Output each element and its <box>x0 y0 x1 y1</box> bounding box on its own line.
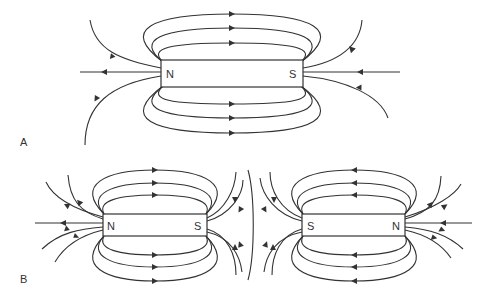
panel-b-right: S N <box>248 167 472 284</box>
field-line <box>303 76 388 118</box>
field-line <box>302 195 407 214</box>
field-line <box>143 14 320 62</box>
south-pole-label: S <box>289 68 296 80</box>
north-pole-label: N <box>107 220 115 232</box>
bar-magnet <box>302 214 405 236</box>
field-line <box>93 236 218 281</box>
field-line <box>90 20 161 68</box>
field-line <box>292 236 417 281</box>
bar-magnet <box>103 214 207 236</box>
field-line <box>42 227 103 249</box>
field-line <box>207 232 242 272</box>
field-line <box>158 86 305 104</box>
field-line <box>103 236 208 255</box>
field-line <box>143 86 320 133</box>
field-line <box>405 184 461 217</box>
north-pole-label: N <box>166 68 174 80</box>
panel-label-b: B <box>20 273 27 285</box>
panel-a: N S A <box>20 11 400 148</box>
field-line <box>302 236 407 255</box>
field-line <box>103 195 208 214</box>
south-pole-label: S <box>194 220 201 232</box>
south-pole-label: S <box>307 220 314 232</box>
field-line <box>68 175 103 219</box>
field-line <box>207 172 236 218</box>
field-line <box>85 76 161 145</box>
panel-label-a: A <box>20 136 28 148</box>
field-line <box>292 170 417 214</box>
field-line <box>248 170 253 280</box>
field-line <box>152 28 312 62</box>
field-line <box>264 232 302 272</box>
magnetic-field-diagram: N S A <box>0 0 482 294</box>
panel-b-left: N S B <box>20 167 244 285</box>
bar-magnet <box>161 60 303 87</box>
field-line <box>270 172 302 218</box>
field-line <box>93 170 218 214</box>
field-line <box>158 43 305 62</box>
north-pole-label: N <box>392 220 400 232</box>
